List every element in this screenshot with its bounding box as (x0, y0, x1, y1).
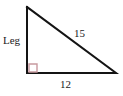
figure-canvas: Leg 15 12 (0, 0, 123, 96)
triangle-outline (27, 7, 116, 73)
side-label-leg: Leg (3, 35, 20, 46)
right-angle-marker-icon (29, 64, 37, 72)
side-label-base: 12 (60, 79, 71, 90)
side-label-hypotenuse: 15 (74, 28, 85, 39)
